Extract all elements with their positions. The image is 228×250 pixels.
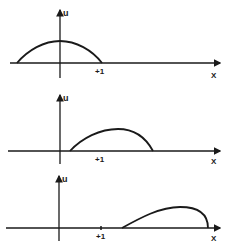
- x-axis-label: X: [211, 71, 217, 80]
- u-axis-label: u: [63, 8, 69, 18]
- wave-steepening-diagram: u +1 X u +1 X u +1 X: [0, 0, 228, 250]
- tick-label-plus-one: +1: [95, 155, 105, 164]
- x-axis-label: X: [211, 157, 217, 166]
- panel-2: u +1 X: [8, 93, 220, 166]
- tick-label-plus-one: +1: [96, 232, 106, 241]
- u-axis-label: u: [62, 174, 68, 184]
- wave-curve: [70, 129, 153, 151]
- x-axis-label: X: [211, 234, 217, 243]
- u-axis-label: u: [63, 93, 69, 103]
- panel-3: u +1 X: [6, 174, 220, 243]
- wave-curve: [122, 207, 208, 228]
- panel-1: u +1 X: [10, 8, 220, 80]
- tick-label-plus-one: +1: [95, 67, 105, 76]
